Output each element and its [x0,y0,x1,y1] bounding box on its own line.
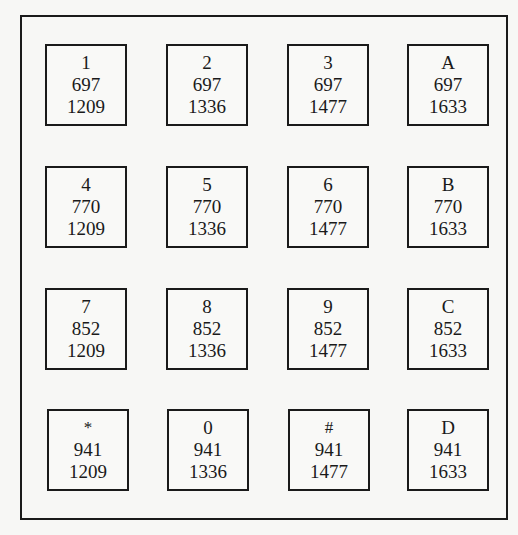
key-symbol: 8 [202,296,212,318]
key-b: B 770 1633 [407,166,489,248]
key-symbol: 7 [81,296,91,318]
key-0: 0 941 1336 [167,409,249,491]
key-high-frequency: 1336 [188,218,226,240]
key-symbol: 9 [323,296,333,318]
key-symbol: D [441,417,455,439]
key-high-frequency: 1633 [429,218,467,240]
key-2: 2 697 1336 [166,44,248,126]
key-low-frequency: 941 [315,439,344,461]
key-high-frequency: 1209 [69,461,107,483]
key-symbol: 4 [81,174,91,196]
key-high-frequency: 1336 [188,96,226,118]
key-high-frequency: 1477 [309,96,347,118]
key-7: 7 852 1209 [45,288,127,370]
key-low-frequency: 941 [194,439,223,461]
key-high-frequency: 1633 [429,461,467,483]
key-high-frequency: 1477 [310,461,348,483]
key-high-frequency: 1209 [67,340,105,362]
key-low-frequency: 941 [434,439,463,461]
key-6: 6 770 1477 [287,166,369,248]
key-high-frequency: 1336 [188,340,226,362]
key-low-frequency: 697 [434,74,463,96]
key-high-frequency: 1633 [429,340,467,362]
key-3: 3 697 1477 [287,44,369,126]
key-symbol: 1 [81,52,91,74]
key-4: 4 770 1209 [45,166,127,248]
key-star: * 941 1209 [47,409,129,491]
key-8: 8 852 1336 [166,288,248,370]
key-symbol: 3 [323,52,333,74]
key-high-frequency: 1477 [309,340,347,362]
key-high-frequency: 1633 [429,96,467,118]
key-hash: # 941 1477 [288,409,370,491]
key-1: 1 697 1209 [45,44,127,126]
key-low-frequency: 697 [314,74,343,96]
key-high-frequency: 1477 [309,218,347,240]
key-low-frequency: 697 [72,74,101,96]
key-low-frequency: 770 [193,196,222,218]
key-symbol: * [84,417,93,439]
key-low-frequency: 697 [193,74,222,96]
key-5: 5 770 1336 [166,166,248,248]
key-a: A 697 1633 [407,44,489,126]
key-low-frequency: 770 [314,196,343,218]
key-symbol: B [442,174,455,196]
key-symbol: 6 [323,174,333,196]
key-low-frequency: 941 [74,439,103,461]
key-symbol: 5 [202,174,212,196]
key-high-frequency: 1336 [189,461,227,483]
key-symbol: 0 [203,417,213,439]
key-d: D 941 1633 [407,409,489,491]
key-c: C 852 1633 [407,288,489,370]
key-low-frequency: 852 [72,318,101,340]
key-low-frequency: 770 [72,196,101,218]
key-low-frequency: 852 [193,318,222,340]
key-symbol: C [442,296,455,318]
key-symbol: A [441,52,455,74]
key-symbol: # [325,417,334,439]
key-high-frequency: 1209 [67,218,105,240]
key-high-frequency: 1209 [67,96,105,118]
key-symbol: 2 [202,52,212,74]
key-low-frequency: 852 [314,318,343,340]
key-low-frequency: 770 [434,196,463,218]
key-low-frequency: 852 [434,318,463,340]
key-9: 9 852 1477 [287,288,369,370]
